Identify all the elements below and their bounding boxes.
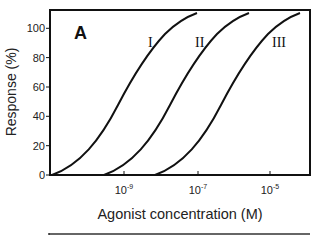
curve-label-III: III — [272, 35, 286, 50]
y-tick-label: 40 — [33, 110, 45, 122]
chart: 0 20 40 60 80 100 Response (%) 10-9 10-7… — [0, 0, 314, 235]
panel-label: A — [74, 23, 87, 43]
y-axis: 0 20 40 60 80 100 — [27, 22, 50, 181]
y-tick-label: 80 — [33, 52, 45, 64]
curve-label-II: II — [195, 35, 205, 50]
x-tick-label: 10-9 — [115, 183, 134, 196]
x-axis-title: Agonist concentration (M) — [97, 206, 262, 222]
y-axis-title: Response (%) — [3, 48, 19, 137]
y-tick-label: 20 — [33, 140, 45, 152]
y-tick-label: 60 — [33, 81, 45, 93]
y-tick-label: 0 — [39, 169, 45, 181]
y-tick-label: 100 — [27, 22, 45, 34]
x-tick-label: 10-7 — [189, 183, 208, 196]
curve-label-I: I — [148, 35, 153, 50]
x-tick-label: 10-5 — [261, 183, 280, 196]
